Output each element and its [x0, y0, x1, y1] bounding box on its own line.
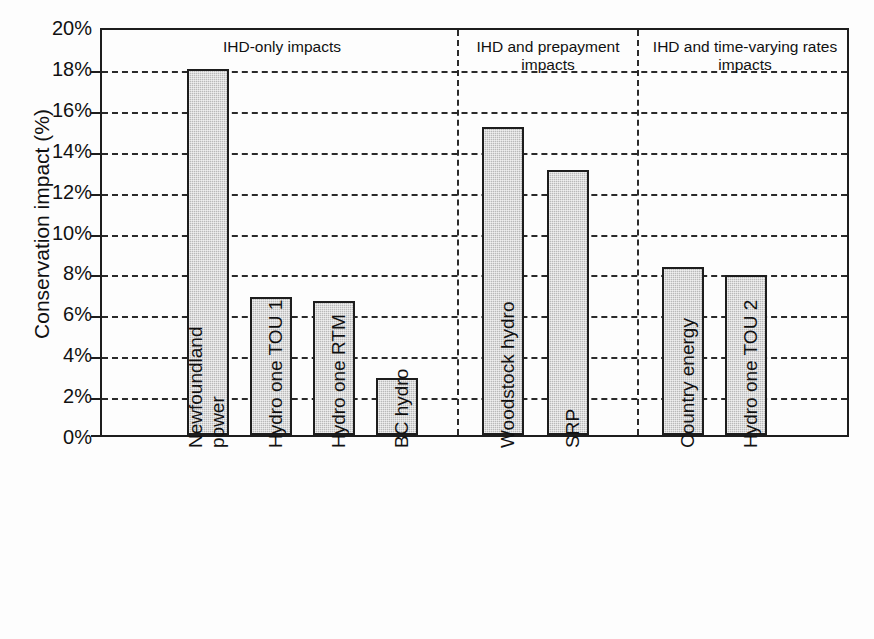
y-tick-mark	[91, 357, 102, 359]
y-tick-label: 10%	[30, 221, 92, 244]
group-divider	[637, 30, 639, 435]
y-tick-mark	[91, 153, 102, 155]
x-tick-label-newfoundland-power-line2: power	[207, 396, 229, 448]
y-tick-label: 20%	[30, 17, 92, 40]
group-label-line: IHD-only impacts	[223, 38, 341, 55]
y-tick-mark	[91, 71, 102, 73]
bar-chart-figure: Conservation impact (%) 20% 18% 16% 14% …	[0, 0, 874, 639]
group-label-ihd-only: IHD-only impacts	[122, 38, 442, 56]
x-tick-label-hydro-one-rtm: Hydro one RTM	[328, 314, 350, 448]
y-tick-label: 0%	[30, 426, 92, 449]
y-tick-label: 18%	[30, 57, 92, 80]
y-tick-label: 14%	[30, 139, 92, 162]
x-tick-label-line: Hydro one RTM	[328, 314, 349, 448]
y-tick-mark	[91, 235, 102, 237]
x-tick-label-line: Newfoundland	[185, 327, 206, 448]
y-tick-label: 2%	[30, 385, 92, 408]
x-tick-label-hydro-one-tou-1: Hydro one TOU 1	[265, 300, 287, 448]
group-divider	[457, 30, 459, 435]
y-tick-mark	[91, 435, 102, 437]
group-label-line: IHD and time-varying rates	[653, 38, 837, 55]
y-tick-label: 16%	[30, 98, 92, 121]
y-tick-label: 6%	[30, 303, 92, 326]
y-tick-mark	[91, 398, 102, 400]
x-tick-label-line: BC hydro	[391, 369, 412, 448]
x-tick-label-bc-hydro: BC hydro	[391, 369, 413, 448]
y-tick-mark	[91, 316, 102, 318]
group-label-line: IHD and prepayment	[476, 38, 619, 55]
x-tick-label-country-energy: Country energy	[677, 318, 699, 448]
y-tick-label: 12%	[30, 180, 92, 203]
y-tick-label: 8%	[30, 262, 92, 285]
x-tick-label-srp: SRP	[562, 409, 584, 448]
y-tick-mark	[91, 275, 102, 277]
bar-srp[interactable]	[547, 170, 589, 435]
y-tick-mark	[91, 112, 102, 114]
x-tick-label-woodstock-hydro: Woodstock hydro	[497, 302, 519, 448]
x-tick-label-line: Hydro one TOU 1	[265, 300, 286, 448]
group-label-line: impacts	[521, 56, 574, 73]
group-label-ihd-prepayment: IHD and prepayment impacts	[463, 38, 633, 74]
group-label-line: impacts	[718, 56, 771, 73]
y-tick-mark	[91, 194, 102, 196]
x-tick-label-line: Hydro one TOU 2	[740, 300, 761, 448]
x-tick-label-newfoundland-power: Newfoundland	[185, 327, 207, 448]
x-tick-label-line: power	[207, 396, 228, 448]
plot-area: IHD-only impacts IHD and prepayment impa…	[100, 28, 849, 437]
x-tick-label-line: Country energy	[677, 318, 698, 448]
x-tick-label-line: SRP	[562, 409, 583, 448]
y-tick-label: 4%	[30, 344, 92, 367]
x-tick-label-hydro-one-tou-2: Hydro one TOU 2	[740, 300, 762, 448]
group-label-ihd-time-varying: IHD and time-varying rates impacts	[643, 38, 847, 74]
y-axis-tick-labels: 20% 18% 16% 14% 12% 10% 8% 6% 4% 2% 0%	[24, 0, 92, 639]
x-tick-label-line: Woodstock hydro	[497, 302, 518, 448]
